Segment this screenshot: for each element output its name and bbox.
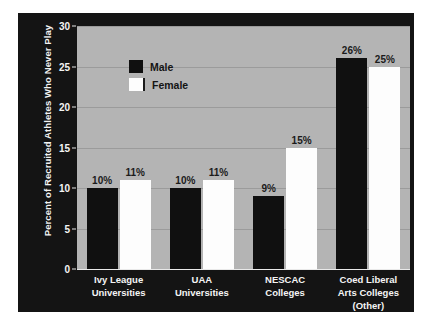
bar-value-label: 11%	[125, 167, 144, 178]
category-label-line: Arts Colleges	[327, 286, 410, 299]
plot-area: 051015202530 10%11%10%11%9%15%26%25% Mal…	[77, 26, 410, 269]
bar-value-label: 25%	[375, 54, 395, 65]
y-tick-label: 15	[59, 142, 70, 153]
y-tick-mark	[72, 66, 76, 67]
x-axis-line	[77, 269, 410, 270]
bar-male: 10%	[87, 188, 118, 269]
legend-item-male: Male	[129, 59, 188, 74]
legend-label-female: Female	[152, 79, 188, 91]
category-label-line: Coed Liberal	[327, 273, 410, 286]
bar-male: 10%	[170, 188, 201, 269]
y-tick-mark	[72, 228, 76, 229]
y-tick-mark	[72, 147, 76, 148]
x-axis-category-label: UAAUniversities	[160, 273, 243, 299]
y-axis-title: Percent of Recruited Athletes Who Never …	[42, 16, 53, 246]
bar-female: 25%	[369, 67, 400, 270]
bar-value-label: 15%	[292, 135, 312, 146]
category-label-line: NESCAC	[244, 273, 327, 286]
bar-male: 26%	[336, 58, 367, 269]
bar-female: 11%	[203, 180, 234, 269]
legend-item-female: Female	[129, 77, 188, 92]
legend-label-male: Male	[150, 61, 173, 73]
y-tick-label: 5	[64, 223, 70, 234]
bar-value-label: 9%	[261, 183, 275, 194]
bar-chart: Percent of Recruited Athletes Who Never …	[0, 0, 433, 326]
chart-panel: Percent of Recruited Athletes Who Never …	[18, 13, 414, 312]
bar-value-label: 10%	[92, 175, 112, 186]
y-tick-label: 30	[59, 21, 70, 32]
category-label-line: Ivy League	[77, 273, 160, 286]
bar-female: 11%	[120, 180, 151, 269]
y-tick-label: 0	[64, 264, 70, 275]
x-axis-category-label: NESCACColleges	[244, 273, 327, 299]
y-tick-mark	[72, 269, 76, 270]
y-tick-label: 10	[59, 183, 70, 194]
y-tick-mark	[72, 107, 76, 108]
chart-legend: Male Female	[129, 59, 188, 95]
y-tick-mark	[72, 26, 76, 27]
bar-female: 15%	[286, 148, 317, 270]
bar-value-label: 26%	[342, 45, 362, 56]
x-axis-category-label: Coed LiberalArts Colleges(Other)	[327, 273, 410, 312]
y-tick-mark	[72, 188, 76, 189]
category-label-line: (Other)	[327, 299, 410, 312]
y-tick-label: 25	[59, 61, 70, 72]
x-axis-category-label: Ivy LeagueUniversities	[77, 273, 160, 299]
bar-value-label: 11%	[209, 167, 228, 178]
bar-value-label: 10%	[175, 175, 195, 186]
gridline	[77, 26, 410, 27]
bar-male: 9%	[253, 196, 284, 269]
category-label-line: Universities	[160, 286, 243, 299]
legend-swatch-female-icon	[129, 78, 145, 91]
category-label-line: Colleges	[244, 286, 327, 299]
legend-swatch-male-icon	[129, 60, 143, 73]
category-label-line: Universities	[77, 286, 160, 299]
y-tick-label: 20	[59, 102, 70, 113]
category-label-line: UAA	[160, 273, 243, 286]
